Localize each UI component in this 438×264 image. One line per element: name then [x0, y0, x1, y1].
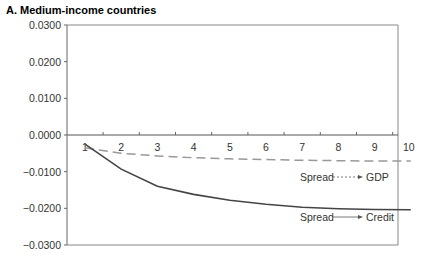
x-tick-label: 2: [118, 141, 124, 153]
x-tick-label: 10: [403, 141, 415, 153]
x-tick-label: 1: [82, 141, 88, 153]
series-labels: SpreadGDPSpreadCredit: [300, 171, 394, 223]
arrow-head-icon: [358, 175, 363, 179]
x-tick-label: 4: [191, 141, 197, 153]
y-tick-label: −0.0200: [23, 202, 61, 214]
series-line-gdp: [85, 148, 411, 161]
arrow-head-icon: [358, 215, 363, 219]
x-tick-label: 5: [227, 141, 233, 153]
y-tick-label: 0.0300: [29, 19, 61, 31]
y-tick-label: 0.0100: [29, 92, 61, 104]
label-to: GDP: [366, 171, 389, 183]
label-from: Spread: [300, 211, 334, 223]
x-tick-label: 8: [335, 141, 341, 153]
label-from: Spread: [300, 171, 334, 183]
y-tick-label: −0.0300: [23, 239, 61, 251]
y-tick-label: −0.0100: [23, 166, 61, 178]
x-tick-label: 7: [299, 141, 305, 153]
x-tick-label: 6: [263, 141, 269, 153]
y-tick-label: 0.0000: [29, 129, 61, 141]
label-to: Credit: [366, 211, 394, 223]
chart-title: A. Medium-income countries: [6, 4, 156, 16]
axes: 0.03000.02000.01000.0000−0.0100−0.0200−0…: [23, 19, 415, 251]
y-tick-label: 0.0200: [29, 56, 61, 68]
line-chart: A. Medium-income countries 0.03000.02000…: [0, 0, 438, 264]
x-tick-label: 3: [154, 141, 160, 153]
x-tick-label: 9: [372, 141, 378, 153]
